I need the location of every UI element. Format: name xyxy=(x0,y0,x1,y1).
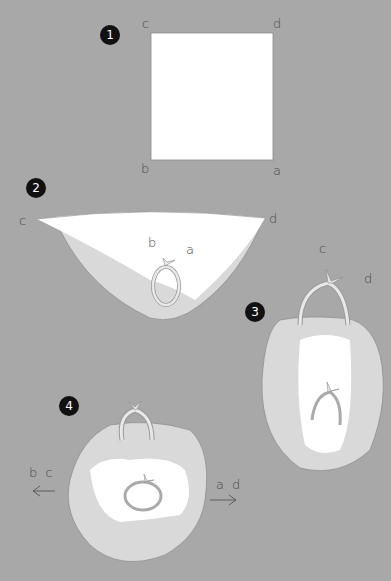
furoshiki-illustration xyxy=(0,0,391,581)
step4-bag xyxy=(33,401,236,562)
square-cloth xyxy=(151,33,273,160)
label-c-step1: c xyxy=(142,17,149,30)
label-d-step2: d xyxy=(269,212,277,225)
step2-cloth xyxy=(37,212,265,320)
step-badge-4: 4 xyxy=(59,396,79,416)
step-badge-3: 3 xyxy=(245,302,265,322)
label-c-step3: c xyxy=(319,242,326,255)
label-c-step2: c xyxy=(19,214,26,227)
label-bc-step4: b c xyxy=(29,466,53,479)
arrow-right-icon xyxy=(210,495,236,505)
label-d-step1: d xyxy=(273,17,281,30)
label-d-step3: d xyxy=(364,272,372,285)
step3-bag xyxy=(262,269,383,471)
label-ad-step4: a d xyxy=(216,478,240,491)
arrow-left-icon xyxy=(33,486,55,496)
label-b-step1: b xyxy=(141,162,149,175)
label-a-step2: a xyxy=(186,243,194,256)
label-a-step1: a xyxy=(273,164,281,177)
label-b-step2: b xyxy=(148,236,156,249)
step-badge-1: 1 xyxy=(100,25,120,45)
step-badge-2: 2 xyxy=(26,178,46,198)
